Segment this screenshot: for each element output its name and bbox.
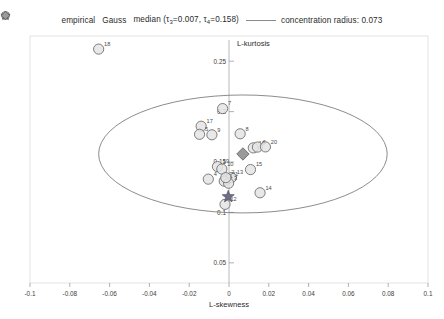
- data-point-circle: [260, 142, 270, 152]
- data-point-label: 13: [237, 169, 243, 175]
- data-point-circle: [207, 130, 217, 140]
- plot-axes: -0.1-0.08-0.06-0.04-0.0200.020.040.060.0…: [24, 40, 432, 297]
- data-point-circle: [221, 173, 231, 183]
- x-tick-label: -0.02: [182, 290, 197, 297]
- data-point-label: 20: [271, 139, 277, 145]
- data-points: 1871759816620191015411131321412: [94, 41, 277, 210]
- data-point-label: 8: [246, 126, 249, 132]
- data-point-label: 7: [228, 100, 231, 106]
- data-point-circle: [245, 164, 255, 174]
- y-tick-label: 0.25: [214, 58, 227, 65]
- lmoment-ratio-figure: empirical Gauss median (τ3=0.007, τ4=0.1…: [0, 0, 444, 319]
- data-point-label: 2: [231, 169, 234, 175]
- x-tick-label: -0.06: [102, 290, 117, 297]
- x-tick-label: 0: [227, 290, 231, 297]
- data-point-label: 15: [256, 161, 262, 167]
- x-tick-label: 0.02: [263, 290, 276, 297]
- x-tick-label: -0.08: [63, 290, 78, 297]
- data-point-circle: [94, 44, 104, 54]
- scatter-plot: -0.1-0.08-0.06-0.04-0.0200.020.040.060.0…: [0, 0, 444, 319]
- x-tick-label: 0.06: [342, 290, 355, 297]
- data-point-label: 3: [234, 175, 237, 181]
- data-point-circle: [203, 174, 213, 184]
- x-tick-label: 0.1: [424, 290, 433, 297]
- y-tick-label: 0.05: [214, 259, 227, 266]
- data-point-circle: [235, 129, 245, 139]
- x-axis-title: L-skewness: [209, 300, 249, 309]
- data-point-label: 10: [227, 161, 233, 167]
- data-point-label: 5: [205, 126, 208, 132]
- x-tick-label: 0.04: [302, 290, 315, 297]
- y-axis-title: L-kurtosis: [237, 39, 270, 48]
- data-point-label: 17: [207, 118, 213, 124]
- median-diamond-marker: [237, 148, 249, 160]
- data-point-label: 18: [104, 41, 110, 47]
- x-tick-label: 0.08: [382, 290, 395, 297]
- data-point-circle: [194, 129, 204, 139]
- x-tick-label: -0.1: [24, 290, 35, 297]
- data-point-circle: [218, 103, 228, 113]
- data-point-circle: [255, 188, 265, 198]
- data-point-label: 4: [214, 171, 217, 177]
- data-point-label: 9: [217, 127, 220, 133]
- data-point-label: 14: [265, 185, 271, 191]
- x-tick-label: -0.04: [142, 290, 157, 297]
